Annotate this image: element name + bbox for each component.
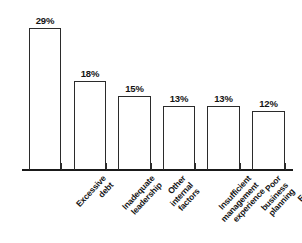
category-label-5: External causes <box>296 174 302 210</box>
bar-0 <box>29 28 61 170</box>
bar-3 <box>163 106 195 170</box>
bar-value-4: 13% <box>207 93 240 104</box>
bar-value-0: 29% <box>29 15 61 26</box>
category-label-4: Poor business planning <box>252 174 297 219</box>
axis-tick <box>118 163 119 170</box>
axis-tick <box>285 163 286 170</box>
bar-4 <box>207 106 240 170</box>
axis-tick <box>29 163 30 170</box>
bar-value-5: 12% <box>252 98 285 109</box>
axis-tick <box>61 163 62 170</box>
axis-tick <box>207 163 208 170</box>
axis-tick <box>240 163 241 170</box>
category-label-2: Other internal factors <box>161 174 202 215</box>
bar-value-1: 18% <box>74 68 106 79</box>
bar-value-3: 13% <box>163 93 195 104</box>
axis-tick <box>163 163 164 170</box>
axis-tick <box>151 163 152 170</box>
bar-5 <box>252 111 285 170</box>
axis-tick <box>252 163 253 170</box>
bar-value-2: 15% <box>118 83 151 94</box>
bar-1 <box>74 81 106 170</box>
bar-2 <box>118 96 151 170</box>
axis-tick <box>106 163 107 170</box>
category-label-1: Inadequate leadership <box>121 174 164 218</box>
category-label-line: External <box>296 174 302 204</box>
axis-tick <box>74 163 75 170</box>
category-label-0: Excessive debt <box>75 174 116 216</box>
axis-tick <box>195 163 196 170</box>
bar-chart: 29% 18% 15% 13% 13% 12% Excessive debt I… <box>0 0 302 243</box>
